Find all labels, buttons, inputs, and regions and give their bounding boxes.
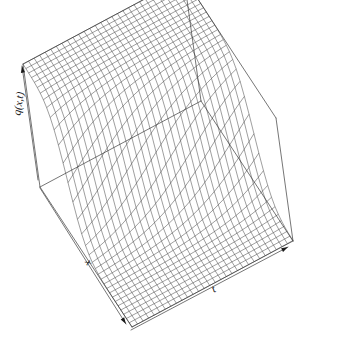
perspective-plot-figure: x t q(x,t) bbox=[0, 0, 348, 340]
surface-plot-canvas: x t q(x,t) bbox=[0, 0, 348, 340]
